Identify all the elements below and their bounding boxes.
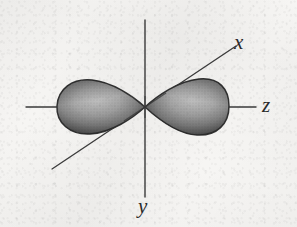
axis-label-y: y [138,196,147,217]
axis-label-x: x [234,32,243,53]
orbital-diagram-svg [0,0,297,227]
orbital-figure: x z y [0,0,297,227]
axis-label-z: z [262,95,270,116]
orbital-lobe-negative-z [57,80,145,134]
orbital-lobe-positive-z [145,79,229,135]
